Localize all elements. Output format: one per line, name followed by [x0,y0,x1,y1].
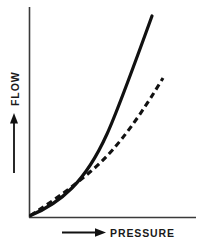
series-dashed-curve [31,78,164,216]
chart-figure: FLOW PRESSURE [0,0,209,248]
series-solid-curve [31,16,153,216]
y-axis-label: FLOW [9,71,21,106]
chart-canvas: FLOW PRESSURE [0,0,209,248]
x-axis-label: PRESSURE [110,227,175,239]
x-axis-arrow-head-icon [95,228,106,236]
y-axis-arrow-head-icon [10,113,18,124]
